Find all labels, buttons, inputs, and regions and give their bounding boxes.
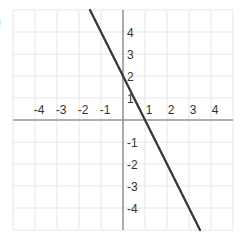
- x-tick-label: -2: [78, 103, 89, 117]
- x-tick-label: -1: [100, 103, 111, 117]
- x-tick-label: -3: [56, 103, 67, 117]
- x-tick-label: 2: [168, 103, 175, 117]
- x-tick-label: 4: [212, 103, 219, 117]
- y-tick-label: -3: [127, 180, 138, 194]
- axes: [13, 10, 233, 230]
- y-tick-label: -2: [127, 158, 138, 172]
- y-tick-label: -4: [127, 202, 138, 216]
- y-tick-label: -1: [127, 136, 138, 150]
- y-tick-label: 3: [127, 48, 134, 62]
- x-tick-label: 1: [146, 103, 153, 117]
- coordinate-plane: -4-3-2-11234 4321-1-2-3-4: [0, 0, 241, 242]
- y-tick-label: 4: [127, 26, 134, 40]
- x-tick-label: 3: [190, 103, 197, 117]
- y-tick-label: 2: [127, 70, 134, 84]
- x-tick-label: -4: [34, 103, 45, 117]
